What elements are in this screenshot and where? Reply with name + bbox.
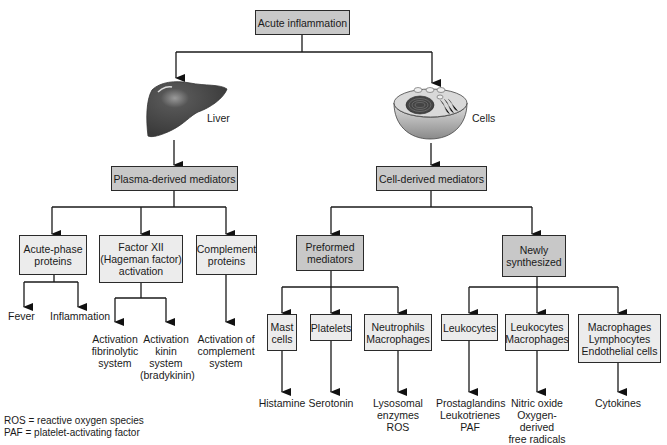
plasma-derived-mediators-box: Plasma-derived mediators [111, 166, 238, 191]
outcome-nitric-oxide: Nitric oxide Oxygen- derived free radica… [505, 397, 569, 445]
cell-derived-mediators-box: Cell-derived mediators [376, 166, 487, 191]
mast-cells-box: Mast cells [267, 314, 297, 351]
outcome-cytokines: Cytokines [590, 397, 646, 409]
neutrophils-macrophages-box: Neutrophils Macrophages [364, 314, 432, 351]
outcome-kinin: Activation kinin system (bradykinin) [140, 333, 192, 381]
legend-ros: ROS = reactive oxygen species [4, 415, 144, 427]
liver-label: Liver [207, 112, 230, 124]
platelets-box: Platelets [310, 314, 352, 341]
acute-phase-proteins-box: Acute-phase proteins [19, 235, 87, 275]
outcome-prostaglandins: Prostaglandins Leukotrienes PAF [436, 397, 504, 433]
complement-proteins-box: Complement proteins [196, 235, 257, 275]
cell-icon [394, 88, 467, 140]
outcome-fever: Fever [8, 310, 35, 322]
outcome-complement: Activation of complement system [196, 333, 256, 369]
cells-label: Cells [472, 112, 495, 124]
outcome-fibrinolytic: Activation fibrinolytic system [91, 333, 139, 369]
connector-lines [0, 0, 667, 445]
outcome-histamine: Histamine [256, 397, 308, 409]
liver-icon [147, 82, 227, 137]
acute-inflammation-box: Acute inflammation [255, 10, 350, 35]
legend-paf: PAF = platelet-activating factor [4, 427, 140, 439]
preformed-mediators-box: Preformed mediators [296, 235, 364, 271]
factor-xii-box: Factor XII (Hageman factor) activation [99, 235, 183, 283]
leukocytes-macrophages-box: Leukocytes Macrophages [505, 314, 569, 351]
newly-synthesized-box: Newly synthesized [502, 235, 566, 277]
leukocytes-box: Leukocytes [441, 314, 498, 341]
outcome-lysosomal: Lysosomal enzymes ROS [368, 397, 428, 433]
macrophages-lymphocytes-endothelial-box: Macrophages Lymphocytes Endothelial cell… [578, 314, 661, 363]
outcome-inflammation: Inflammation [50, 310, 110, 322]
outcome-serotonin: Serotonin [308, 397, 354, 409]
